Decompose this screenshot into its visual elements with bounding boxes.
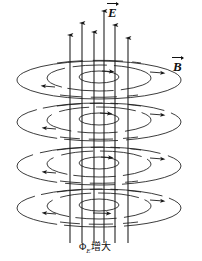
magnetic-field-vector-label: B: [172, 60, 183, 73]
magnetic-loop-level-3: [17, 147, 181, 185]
electric-field-lines: [70, 11, 128, 243]
magnetic-field-symbol: B: [173, 59, 182, 74]
vector-arrow-icon: [172, 57, 183, 58]
electric-field-symbol: E: [108, 5, 117, 20]
electric-field-vector-label: E: [107, 6, 118, 19]
magnetic-loop-level-1: [17, 60, 181, 99]
flux-suffix-text: 增大: [91, 241, 111, 252]
magnetic-loop-level-2: [17, 103, 181, 141]
vector-arrow-icon: [107, 3, 118, 4]
magnetic-loop-level-4: [17, 189, 181, 227]
field-diagram-svg: [0, 0, 202, 261]
physics-figure: E B ΦE增大: [0, 0, 202, 261]
flux-caption: ΦE增大: [79, 242, 111, 255]
